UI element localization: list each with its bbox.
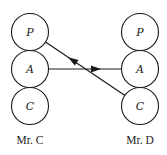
ego-state-diagram: P A C Mr. C P A C Mr. D <box>0 0 167 155</box>
ego-state-label: P <box>135 26 144 39</box>
person-label-mr-d: Mr. D <box>126 134 153 146</box>
ego-state-label: C <box>26 100 35 113</box>
ego-state-label: A <box>135 63 144 76</box>
arrow-right-icon <box>91 66 101 73</box>
person-mr-c: P A C Mr. C <box>12 14 49 147</box>
ego-state-label: P <box>25 26 34 39</box>
ego-state-label: C <box>136 100 145 113</box>
arrow-up-left-icon <box>68 57 79 65</box>
ego-state-label: A <box>25 63 34 76</box>
person-label-mr-c: Mr. C <box>17 134 44 146</box>
person-mr-d: P A C Mr. D <box>122 14 159 147</box>
